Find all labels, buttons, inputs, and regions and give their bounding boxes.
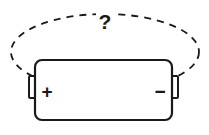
question-mark-label: ? bbox=[99, 10, 112, 33]
diagram-canvas: + − ? bbox=[0, 0, 209, 135]
minus-sign-icon: − bbox=[154, 81, 165, 102]
plus-sign-icon: + bbox=[41, 81, 52, 102]
battery-body bbox=[35, 60, 172, 120]
battery-diagram-svg: + − ? bbox=[0, 0, 209, 135]
